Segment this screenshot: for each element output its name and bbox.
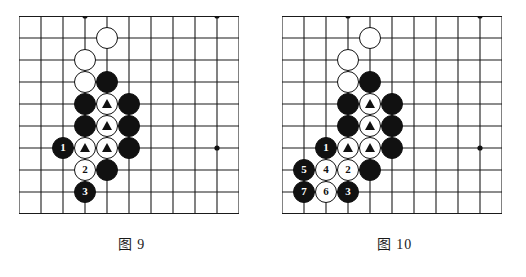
go-stone-white[interactable] — [337, 71, 359, 93]
go-stone-black-1[interactable]: 1 — [315, 137, 337, 159]
go-stone-white-2[interactable]: 2 — [337, 159, 359, 181]
go-stone-black[interactable] — [381, 115, 403, 137]
stone-move-number: 3 — [345, 186, 351, 197]
go-stone-white[interactable] — [337, 49, 359, 71]
board-stones: 1542763 — [282, 16, 502, 214]
go-stone-white[interactable] — [96, 27, 118, 49]
go-stone-black[interactable] — [359, 71, 381, 93]
go-stone-black-1[interactable]: 1 — [52, 137, 74, 159]
figure-panel-right: 1542763 图 10 — [263, 0, 526, 277]
go-stone-black[interactable] — [381, 93, 403, 115]
go-board-figure-10[interactable]: 1542763 — [282, 16, 502, 214]
triangle-marker-icon — [102, 121, 112, 130]
go-stone-black[interactable] — [337, 115, 359, 137]
go-stone-black[interactable] — [96, 159, 118, 181]
go-stone-white[interactable] — [74, 49, 96, 71]
stone-move-number: 6 — [323, 186, 329, 197]
go-stone-white[interactable] — [74, 71, 96, 93]
stone-move-number: 2 — [345, 164, 351, 175]
go-stone-white-6[interactable]: 6 — [315, 181, 337, 203]
figure-caption: 图 9 — [0, 233, 263, 253]
stone-move-number: 4 — [323, 164, 329, 175]
go-stone-black[interactable] — [118, 115, 140, 137]
stone-move-number: 1 — [323, 142, 329, 153]
go-stone-black[interactable] — [118, 93, 140, 115]
go-board-figure-9[interactable]: 123 — [19, 16, 239, 214]
figure-panel-left: 123 图 9 — [0, 0, 263, 277]
go-stone-white[interactable] — [337, 137, 359, 159]
go-stone-black[interactable] — [118, 137, 140, 159]
go-stone-black-3[interactable]: 3 — [337, 181, 359, 203]
go-stone-black[interactable] — [96, 71, 118, 93]
go-stone-white-4[interactable]: 4 — [315, 159, 337, 181]
go-stone-black[interactable] — [74, 115, 96, 137]
figure-caption: 图 10 — [263, 233, 526, 253]
go-stone-white[interactable] — [96, 93, 118, 115]
triangle-marker-icon — [365, 143, 375, 152]
go-stone-black[interactable] — [359, 159, 381, 181]
triangle-marker-icon — [365, 99, 375, 108]
go-stone-white[interactable] — [359, 137, 381, 159]
triangle-marker-icon — [343, 143, 353, 152]
go-stone-white[interactable] — [74, 137, 96, 159]
go-stone-black-7[interactable]: 7 — [293, 181, 315, 203]
stone-move-number: 3 — [82, 186, 88, 197]
stone-move-number: 5 — [301, 164, 307, 175]
triangle-marker-icon — [102, 99, 112, 108]
go-stone-white[interactable] — [96, 115, 118, 137]
go-stone-white-2[interactable]: 2 — [74, 159, 96, 181]
go-diagram-page: 123 图 9 1542763 图 10 — [0, 0, 526, 277]
triangle-marker-icon — [80, 143, 90, 152]
stone-move-number: 1 — [60, 142, 66, 153]
go-stone-black-3[interactable]: 3 — [74, 181, 96, 203]
go-stone-black[interactable] — [381, 137, 403, 159]
triangle-marker-icon — [102, 143, 112, 152]
go-stone-white[interactable] — [359, 27, 381, 49]
go-stone-black[interactable] — [74, 93, 96, 115]
go-stone-white[interactable] — [359, 93, 381, 115]
stone-move-number: 7 — [301, 186, 307, 197]
board-stones: 123 — [19, 16, 239, 214]
go-stone-black-5[interactable]: 5 — [293, 159, 315, 181]
go-stone-white[interactable] — [96, 137, 118, 159]
triangle-marker-icon — [365, 121, 375, 130]
go-stone-white[interactable] — [359, 115, 381, 137]
stone-move-number: 2 — [82, 164, 88, 175]
go-stone-black[interactable] — [337, 93, 359, 115]
